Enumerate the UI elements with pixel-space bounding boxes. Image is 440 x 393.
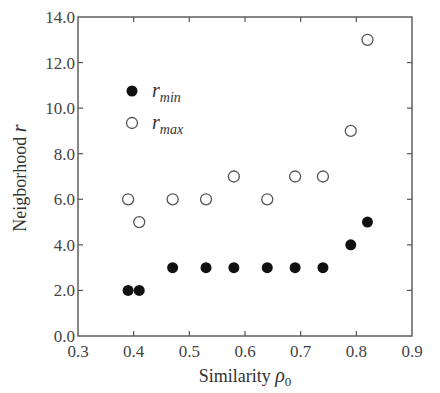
- data-point-r-max: [262, 194, 273, 205]
- data-point-r-max: [290, 171, 301, 182]
- data-point-r-max: [317, 171, 328, 182]
- data-point-r-min: [201, 262, 212, 273]
- scatter-chart: 0.30.40.50.60.70.80.9 0.02.04.06.08.010.…: [0, 0, 440, 393]
- data-point-r-min: [134, 285, 145, 296]
- data-point-r-max: [228, 171, 239, 182]
- legend: rmin rmax: [127, 79, 184, 137]
- x-tick-label: 0.8: [346, 342, 367, 361]
- data-point-r-max: [134, 217, 145, 228]
- legend-label-rmax: rmax: [152, 111, 184, 137]
- data-point-r-max: [345, 125, 356, 136]
- legend-marker-rmin: [127, 86, 138, 97]
- data-point-r-min: [345, 239, 356, 250]
- data-point-r-max: [123, 194, 134, 205]
- data-point-r-min: [167, 262, 178, 273]
- y-tick-label: 14.0: [45, 8, 75, 27]
- y-tick-label: 0.0: [54, 327, 75, 346]
- data-point-r-min: [317, 262, 328, 273]
- y-tick-label: 6.0: [54, 190, 75, 209]
- x-tick-label: 0.5: [179, 342, 200, 361]
- data-point-r-max: [167, 194, 178, 205]
- x-tick-label: 0.4: [123, 342, 145, 361]
- data-point-r-min: [123, 285, 134, 296]
- y-axis-title: Neigborhood r: [8, 124, 30, 231]
- data-point-r-max: [362, 34, 373, 45]
- x-tick-label: 0.9: [401, 342, 422, 361]
- legend-label-rmin: rmin: [152, 79, 181, 105]
- data-points: [123, 34, 373, 296]
- data-point-r-max: [201, 194, 212, 205]
- x-tick-label: 0.6: [234, 342, 255, 361]
- y-tick-label: 2.0: [54, 281, 75, 300]
- x-axis-title: Similarity ρ0: [199, 364, 292, 389]
- y-tick-label: 8.0: [54, 145, 75, 164]
- y-tick-label: 4.0: [54, 236, 75, 255]
- data-point-r-min: [228, 262, 239, 273]
- x-tick-label: 0.7: [290, 342, 312, 361]
- y-tick-label: 10.0: [45, 99, 75, 118]
- data-point-r-min: [362, 217, 373, 228]
- y-tick-label: 12.0: [45, 54, 75, 73]
- data-point-r-min: [290, 262, 301, 273]
- legend-marker-rmax: [127, 118, 138, 129]
- data-point-r-min: [262, 262, 273, 273]
- x-axis: 0.30.40.50.60.70.80.9: [67, 17, 422, 361]
